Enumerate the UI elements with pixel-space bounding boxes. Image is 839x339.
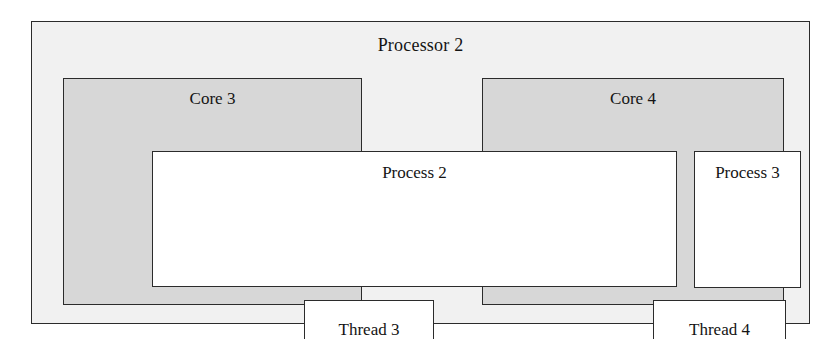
thread-label-thread-3: Thread 3 xyxy=(305,320,433,339)
process-label-process-3: Process 3 xyxy=(695,163,800,183)
thread-label-thread-4: Thread 4 xyxy=(654,320,785,339)
thread-box-thread-3: Thread 3 xyxy=(304,300,434,339)
process-box-process-3: Process 3 Thread 5 xyxy=(694,151,801,288)
diagram-canvas: Processor 2 Core 3 Core 4 Process 2 Thre… xyxy=(0,0,839,339)
core-label-core-3: Core 3 xyxy=(64,89,361,109)
processor-label: Processor 2 xyxy=(32,35,809,56)
process-label-process-2: Process 2 xyxy=(153,163,676,183)
thread-box-thread-4: Thread 4 xyxy=(653,300,786,339)
processor-box: Processor 2 Core 3 Core 4 Process 2 Thre… xyxy=(31,21,810,324)
process-box-process-2: Process 2 Thread 3 Thread 4 xyxy=(152,151,677,287)
core-label-core-4: Core 4 xyxy=(483,89,783,109)
